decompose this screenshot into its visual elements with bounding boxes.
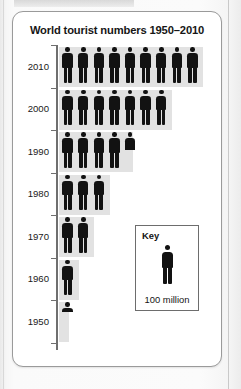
y-axis-label-1950: 1950 bbox=[28, 316, 49, 327]
person-pictogram-icon bbox=[61, 217, 77, 254]
pictogram-row-1950 bbox=[61, 302, 77, 312]
y-axis-tick-1990 bbox=[51, 130, 57, 131]
y-axis-tick-1980 bbox=[51, 173, 57, 174]
person-pictogram-icon bbox=[170, 47, 186, 84]
chart-title: World tourist numbers 1950–2010 bbox=[13, 24, 221, 36]
person-pictogram-icon bbox=[139, 47, 155, 84]
person-pictogram-icon bbox=[77, 47, 93, 84]
y-axis-tick-1950 bbox=[51, 300, 57, 301]
key-caption: 100 million bbox=[136, 294, 198, 305]
y-axis-tick-2010 bbox=[51, 45, 57, 46]
y-axis-line bbox=[56, 45, 58, 350]
page-gutter-left bbox=[3, 0, 4, 389]
person-pictogram-icon bbox=[61, 132, 77, 169]
person-pictogram-icon bbox=[77, 217, 93, 254]
y-axis-label-2000: 2000 bbox=[28, 103, 49, 114]
pictogram-row-2000 bbox=[61, 90, 170, 127]
pictogram-row-2010 bbox=[61, 47, 201, 84]
pictogram-row-1960 bbox=[61, 260, 77, 297]
person-pictogram-icon bbox=[61, 90, 77, 127]
person-pictogram-icon bbox=[108, 47, 124, 84]
pictogram-row-1980 bbox=[61, 175, 108, 212]
key-title: Key bbox=[142, 230, 159, 241]
person-pictogram-icon bbox=[123, 47, 139, 84]
y-axis-tick-1960 bbox=[51, 258, 57, 259]
y-axis-label-1990: 1990 bbox=[28, 146, 49, 157]
person-pictogram-icon bbox=[92, 132, 108, 169]
person-pictogram-icon bbox=[61, 175, 77, 212]
y-axis-tick-baseline bbox=[51, 343, 57, 344]
person-pictogram-icon bbox=[61, 260, 77, 297]
person-pictogram-icon bbox=[61, 47, 77, 84]
person-pictogram-icon bbox=[108, 132, 124, 169]
person-pictogram-icon bbox=[123, 90, 139, 127]
pictogram-row-1990 bbox=[61, 132, 139, 169]
chart-key-legend: Key 100 million bbox=[135, 225, 199, 311]
person-pictogram-icon bbox=[77, 132, 93, 169]
y-axis-label-1970: 1970 bbox=[28, 231, 49, 242]
y-axis-label-1960: 1960 bbox=[28, 273, 49, 284]
person-pictogram-icon bbox=[186, 47, 202, 84]
y-axis-tick-2000 bbox=[51, 88, 57, 89]
y-axis-tick-1970 bbox=[51, 215, 57, 216]
person-pictogram-icon bbox=[77, 90, 93, 127]
chart-card: World tourist numbers 1950–2010 20102000… bbox=[12, 11, 222, 367]
person-pictogram-icon bbox=[92, 175, 108, 212]
person-pictogram-icon bbox=[139, 90, 155, 127]
person-pictogram-icon bbox=[155, 90, 171, 127]
person-pictogram-icon bbox=[92, 90, 108, 127]
page-top-artifact bbox=[14, 0, 134, 7]
y-axis-label-2010: 2010 bbox=[28, 61, 49, 72]
pictogram-row-1970 bbox=[61, 217, 92, 254]
page-gutter-right bbox=[228, 0, 229, 389]
person-pictogram-icon bbox=[155, 47, 171, 84]
person-pictogram-icon bbox=[92, 47, 108, 84]
person-pictogram-icon-partial bbox=[123, 132, 139, 150]
person-pictogram-icon-partial bbox=[61, 302, 77, 312]
person-pictogram-icon bbox=[77, 175, 93, 212]
y-axis-label-1980: 1980 bbox=[28, 188, 49, 199]
person-pictogram-icon bbox=[160, 245, 175, 285]
person-pictogram-icon bbox=[108, 90, 124, 127]
